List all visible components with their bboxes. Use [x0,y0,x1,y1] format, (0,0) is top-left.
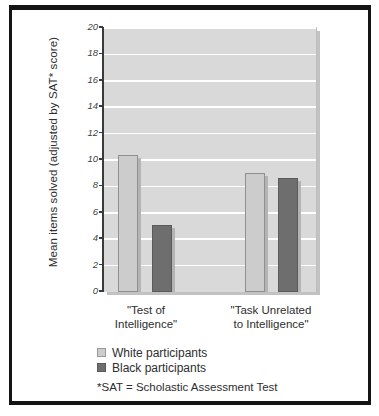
legend-item-white-participants: White participants [97,345,207,360]
y-axis-tick-label: 4 [72,233,98,242]
gridline [103,54,316,56]
y-axis-tick [99,132,103,134]
y-axis-tick-label: 10 [72,154,98,163]
x-axis-group-label-line: "Task Unrelated [201,303,341,317]
bar-black-participants-group-1 [152,225,172,292]
y-axis-tick-label: 6 [72,207,98,216]
x-axis-group-label-1: "Test ofIntelligence" [76,303,216,331]
y-axis-tick-label: 16 [72,75,98,84]
y-axis-tick [99,158,103,160]
legend-item-black-participants: Black participants [97,360,207,375]
bar-white-participants-group-1 [118,155,138,292]
y-axis-tick [99,26,103,28]
light-gray-swatch-icon [97,348,106,357]
y-axis-tick-label: 18 [72,48,98,57]
bar-black-participants-group-2 [278,178,298,292]
x-axis-group-label-2: "Task Unrelatedto Intelligence" [201,303,341,331]
bar-white-participants-group-2 [245,173,265,292]
legend-label: White participants [112,346,207,360]
y-axis-tick-label: 12 [72,128,98,137]
gridline [103,80,316,82]
legend-label: Black participants [112,361,206,375]
y-axis-tick-labels: 02468101214161820 [70,0,98,416]
y-axis-tick [99,53,103,55]
frame-border-left [9,5,12,405]
x-axis-group-label-line: Intelligence" [76,317,216,331]
y-axis-tick-label: 20 [72,22,98,31]
footnote-text: *SAT = Scholastic Assessment Test [97,381,278,393]
gridline [103,133,316,135]
y-axis-tick-label: 14 [72,101,98,110]
gridline [103,106,316,108]
frame-border-top [9,5,371,10]
plot-area [103,27,317,292]
y-axis-tick [99,211,103,213]
y-axis-tick-label: 8 [72,180,98,189]
dark-gray-swatch-icon [97,363,106,372]
y-axis-tick [99,237,103,239]
y-axis-tick [99,79,103,81]
y-axis-tick [99,290,103,292]
x-axis-group-label-line: "Test of [76,303,216,317]
y-axis-title: Mean items solved (adjusted by SAT* scor… [47,27,59,277]
x-axis-group-label-line: to Intelligence" [201,317,341,331]
y-axis-tick [99,185,103,187]
frame-border-bottom [9,401,371,405]
y-axis-tick [99,264,103,266]
y-axis-tick-label: 0 [72,286,98,295]
y-axis-tick-label: 2 [72,260,98,269]
figure-panel: 02468101214161820 Mean items solved (adj… [0,0,379,416]
gridline [103,27,316,29]
chart-legend: White participants Black participants [97,345,207,375]
frame-border-right [368,5,371,405]
y-axis-tick [99,105,103,107]
